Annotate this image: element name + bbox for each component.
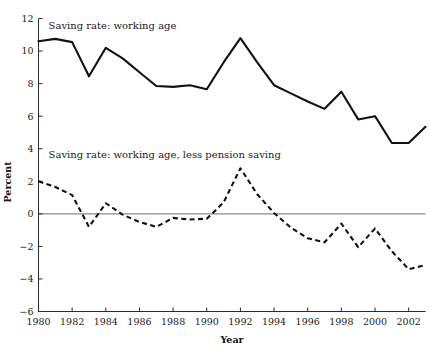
chart-figure: −6−4−2024681012 198019821984198619881990… (0, 0, 430, 349)
x-tick-label: 1980 (26, 316, 50, 327)
y-tick-label: 10 (21, 45, 33, 56)
x-axis-title: Year (219, 334, 244, 345)
y-axis-title: Percent (2, 161, 13, 203)
series-annotation-1: Saving rate: working age, less pension s… (49, 149, 282, 160)
x-tick-label: 1984 (94, 316, 118, 327)
x-tick-label: 1996 (296, 316, 320, 327)
y-tick-label: −4 (19, 273, 33, 284)
x-tick-label: 1990 (195, 316, 219, 327)
y-tick-label: 4 (27, 143, 33, 154)
plot-background (0, 0, 430, 349)
x-tick-label: 2000 (363, 316, 387, 327)
line-chart: −6−4−2024681012 198019821984198619881990… (0, 0, 430, 349)
x-tick-label: 1986 (127, 316, 151, 327)
x-tick-label: 1992 (228, 316, 252, 327)
y-tick-label: 2 (27, 176, 33, 187)
x-tick-label: 1988 (161, 316, 185, 327)
x-tick-label: 1994 (262, 316, 286, 327)
y-tick-label: 8 (27, 78, 33, 89)
y-tick-label: −2 (19, 241, 33, 252)
x-tick-label: 1998 (329, 316, 353, 327)
y-tick-label: 0 (27, 208, 33, 219)
x-tick-label: 1982 (60, 316, 84, 327)
series-annotation-0: Saving rate: working age (49, 20, 177, 31)
y-tick-label: 6 (27, 111, 33, 122)
y-tick-label: 12 (21, 13, 33, 24)
x-tick-label: 2002 (397, 316, 421, 327)
